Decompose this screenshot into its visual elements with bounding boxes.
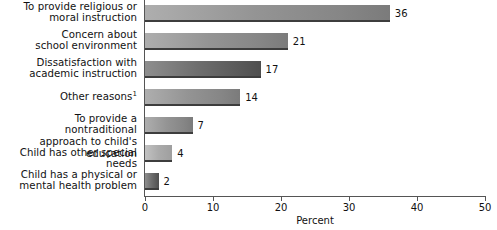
bar-6 [145,145,172,162]
x-tick-0 [145,196,146,201]
bar-value-label-3: 17 [266,61,279,78]
x-tick-label-40: 40 [411,202,424,213]
bar-value-label-4: 14 [245,89,258,106]
category-label-1: To provide religious ormoral instruction [0,1,141,24]
bar-5 [145,117,193,134]
bar-value-label-5: 7 [198,117,204,134]
bar-4 [145,89,240,106]
footnote-marker-4: 1 [132,89,137,97]
category-label-2-line-1: Concern about [0,29,137,41]
category-axis-labels: To provide religious ormoral instruction… [0,0,141,196]
x-tick-20 [281,196,282,201]
category-label-7: Child has a physical ormental health pro… [0,169,141,192]
category-label-2: Concern aboutschool environment [0,29,141,52]
bar-2 [145,33,288,50]
bar-value-label-1: 36 [395,5,408,22]
category-label-7-line-2: mental health problem [0,180,137,192]
bar-value-label-6: 4 [177,145,183,162]
category-label-7-line-1: Child has a physical or [0,169,137,181]
category-label-1-line-1: To provide religious or [0,1,137,13]
category-label-4: Other reasons1 [0,91,141,103]
category-label-3: Dissatisfaction withacademic instruction [0,57,141,80]
x-tick-40 [417,196,418,201]
category-label-5-line-1: To provide a nontraditional [0,113,137,136]
category-label-1-line-2: moral instruction [0,12,137,24]
x-tick-label-10: 10 [207,202,220,213]
category-label-3-line-2: academic instruction [0,68,137,80]
x-tick-label-50: 50 [479,202,492,213]
category-label-6-line-1: Child has other special needs [0,147,137,170]
category-label-4-line-1: Other reasons1 [0,91,137,103]
x-axis-title: Percent [145,215,485,226]
x-axis-line [144,196,485,197]
category-label-2-line-2: school environment [0,40,137,52]
x-tick-label-20: 20 [275,202,288,213]
bar-value-label-2: 21 [293,33,306,50]
bar-3 [145,61,261,78]
bar-7 [145,173,159,190]
bar-value-label-7: 2 [164,173,170,190]
plot-area: 3621171474201020304050 [145,0,485,196]
x-tick-10 [213,196,214,201]
bar-1 [145,5,390,22]
x-tick-30 [349,196,350,201]
category-label-6: Child has other special needs [0,147,141,170]
x-tick-label-0: 0 [142,202,148,213]
x-tick-50 [485,196,486,201]
category-label-3-line-1: Dissatisfaction with [0,57,137,69]
bar-chart: To provide religious ormoral instruction… [0,0,497,230]
x-tick-label-30: 30 [343,202,356,213]
